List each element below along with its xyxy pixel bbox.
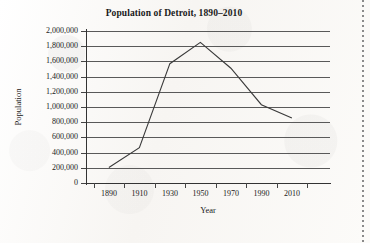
x-axis-tick (307, 183, 308, 188)
y-axis-tick (81, 31, 86, 32)
y-axis-tick (81, 92, 86, 93)
y-axis-line (86, 29, 87, 185)
y-axis-tick (81, 61, 86, 62)
x-axis-title: Year (86, 205, 330, 215)
y-axis-tick (81, 77, 86, 78)
y-axis-tick (81, 183, 86, 184)
x-axis-tick (246, 183, 247, 188)
y-axis-tick-label: 400,000 (18, 149, 78, 157)
x-axis-tick (155, 183, 156, 188)
y-axis-tick-label: 1,400,000 (18, 73, 78, 81)
x-axis-tick (185, 183, 186, 188)
y-axis-tick-label: 200,000 (18, 164, 78, 172)
population-line-chart: Population of Detroit, 1890–2010 Populat… (0, 0, 370, 243)
plot-area (86, 31, 330, 183)
y-axis-tick (81, 137, 86, 138)
x-axis-line (86, 183, 331, 184)
x-axis-tick (124, 183, 125, 188)
chart-title: Population of Detroit, 1890–2010 (0, 8, 348, 18)
y-axis-tick (81, 46, 86, 47)
y-axis-tick-label: 1,000,000 (18, 103, 78, 111)
y-axis-tick-label: 600,000 (18, 133, 78, 141)
y-axis-tick (81, 153, 86, 154)
y-axis-tick-label: 1,600,000 (18, 57, 78, 65)
x-axis-tick (277, 183, 278, 188)
x-axis-tick (216, 183, 217, 188)
data-series-line (86, 31, 330, 183)
x-axis-tick (94, 183, 95, 188)
y-axis-tick-label: 1,800,000 (18, 42, 78, 50)
y-axis-tick-label: 800,000 (18, 118, 78, 126)
page-margin-dotted-rule (362, 0, 364, 243)
y-axis-tick-label: 0 (18, 179, 78, 187)
x-axis-tick-label: 2010 (274, 189, 310, 198)
y-axis-tick (81, 168, 86, 169)
y-axis-tick (81, 107, 86, 108)
y-axis-tick (81, 122, 86, 123)
y-axis-tick-label: 1,200,000 (18, 88, 78, 96)
y-axis-tick-label: 2,000,000 (18, 27, 78, 35)
